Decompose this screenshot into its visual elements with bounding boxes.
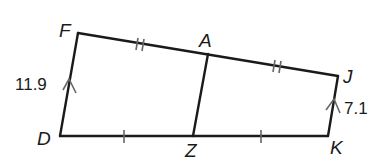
trapezoid-diagram: F A J K Z D 11.9 7.1 (0, 0, 383, 161)
vertex-label-D: D (37, 128, 51, 149)
length-label-JK: 7.1 (344, 99, 368, 118)
vertex-label-F: F (59, 20, 72, 41)
vertex-label-J: J (342, 66, 353, 87)
vertex-label-A: A (198, 30, 212, 51)
vertex-label-Z: Z (184, 140, 198, 161)
length-label-DF: 11.9 (15, 75, 47, 94)
vertex-label-K: K (330, 137, 344, 158)
double-tick-FA (136, 38, 144, 51)
edge-DF (60, 33, 78, 136)
midsegment-AZ (193, 54, 208, 136)
